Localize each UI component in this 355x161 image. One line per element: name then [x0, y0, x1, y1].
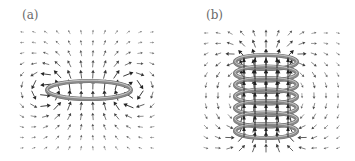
- field-arrow-head: [137, 95, 141, 99]
- field-arrow-shaft: [287, 43, 291, 47]
- field-arrow-head: [92, 135, 94, 137]
- field-arrow-shaft: [123, 74, 130, 77]
- field-arrow-head: [20, 31, 22, 33]
- field-arrow-head: [204, 42, 206, 44]
- field-arrow-head: [315, 42, 317, 45]
- field-arrow-head: [47, 104, 51, 108]
- field-arrow-shaft: [336, 43, 338, 44]
- field-arrow-head: [80, 113, 83, 116]
- field-arrow-head: [338, 32, 340, 34]
- field-arrow-shaft: [104, 32, 105, 34]
- ring-body: [47, 81, 131, 99]
- field-arrow-shaft: [217, 103, 218, 107]
- field-arrow-shaft: [338, 147, 340, 148]
- field-arrow-head: [141, 62, 144, 65]
- field-arrow-shaft: [338, 114, 339, 117]
- field-arrow-head: [265, 30, 268, 33]
- field-arrow-head: [150, 136, 152, 138]
- field-arrow-shaft: [149, 63, 152, 64]
- field-arrow-head: [67, 90, 71, 94]
- field-arrow-shaft: [311, 53, 315, 54]
- field-arrow-head: [92, 30, 94, 32]
- field-arrow-shaft: [215, 136, 219, 137]
- field-arrow-shaft: [229, 63, 234, 65]
- field-arrow-head: [264, 39, 268, 42]
- field-arrow-shaft: [311, 62, 314, 65]
- field-arrow-shaft: [324, 43, 327, 44]
- field-arrow-shaft: [22, 53, 25, 54]
- field-arrow-head: [150, 147, 152, 149]
- field-arrow-head: [325, 106, 327, 109]
- field-arrow-shaft: [33, 80, 36, 86]
- field-arrow-shaft: [127, 32, 129, 34]
- field-arrow-shaft: [57, 32, 59, 34]
- field-arrow-shaft: [80, 115, 81, 120]
- field-arrow-head: [326, 32, 328, 34]
- field-arrow-shaft: [69, 63, 71, 67]
- field-arrow-head: [139, 85, 143, 89]
- solenoid-field-plot: [178, 0, 355, 161]
- field-arrow-shaft: [338, 125, 340, 127]
- field-arrow-head: [20, 52, 22, 54]
- field-arrow-head: [115, 146, 117, 148]
- field-arrow-head: [215, 42, 217, 45]
- field-arrow-head: [103, 70, 107, 74]
- field-arrow-head: [275, 57, 279, 62]
- field-arrow-shaft: [31, 116, 35, 117]
- field-arrow-shaft: [254, 32, 255, 36]
- field-arrow-head: [20, 42, 22, 44]
- field-arrow-head: [137, 126, 139, 128]
- field-arrow-head: [92, 40, 94, 42]
- field-arrow-shaft: [115, 53, 117, 56]
- field-arrow-shaft: [128, 137, 130, 139]
- field-arrow-shaft: [127, 116, 131, 118]
- field-arrow-head: [42, 62, 45, 65]
- field-arrow-head: [217, 96, 220, 99]
- field-arrow-head: [141, 52, 143, 54]
- field-arrow-head: [206, 147, 208, 149]
- field-arrow-shaft: [45, 63, 50, 64]
- field-arrow-head: [297, 136, 300, 140]
- field-arrow-shaft: [325, 82, 326, 85]
- field-arrow-head: [337, 96, 339, 98]
- field-arrow-shaft: [32, 91, 35, 97]
- field-arrow-shaft: [128, 148, 130, 150]
- field-arrow-shaft: [326, 136, 329, 138]
- field-arrow-shaft: [81, 137, 82, 140]
- field-arrow-head: [103, 101, 107, 105]
- field-arrow-shaft: [278, 147, 280, 152]
- field-arrow-shaft: [104, 126, 105, 130]
- field-arrow-head: [229, 96, 231, 98]
- field-arrow-shaft: [126, 53, 129, 55]
- field-arrow-shaft: [301, 148, 305, 149]
- field-arrow-shaft: [152, 92, 153, 96]
- field-arrow-shaft: [116, 105, 120, 111]
- field-arrow-shaft: [150, 72, 153, 75]
- field-arrow-head: [91, 124, 94, 127]
- field-arrow-shaft: [57, 53, 60, 56]
- field-arrow-shaft: [205, 114, 207, 117]
- field-arrow-shaft: [116, 126, 118, 129]
- field-arrow-head: [22, 126, 24, 128]
- field-arrow-head: [137, 115, 140, 118]
- field-arrow-shaft: [302, 114, 305, 117]
- field-arrow-shaft: [69, 42, 70, 45]
- field-arrow-shaft: [105, 148, 106, 150]
- field-arrow-head: [205, 86, 207, 89]
- field-arrow-shaft: [336, 63, 338, 65]
- field-arrow-shaft: [299, 33, 302, 35]
- field-arrow-shaft: [299, 43, 303, 44]
- field-arrow-shaft: [254, 42, 256, 47]
- field-arrow-shaft: [227, 125, 231, 127]
- field-arrow-head: [217, 107, 220, 110]
- field-arrow-shaft: [204, 136, 207, 138]
- field-arrow-head: [92, 146, 94, 148]
- field-arrow-shaft: [40, 106, 47, 107]
- field-arrow-head: [150, 96, 153, 99]
- field-arrow-shaft: [114, 73, 118, 79]
- field-arrow-shaft: [326, 125, 328, 127]
- field-arrow-shaft: [104, 105, 106, 111]
- field-arrow-shaft: [226, 148, 230, 149]
- field-arrow-shaft: [151, 115, 154, 116]
- field-arrow-head: [230, 146, 233, 149]
